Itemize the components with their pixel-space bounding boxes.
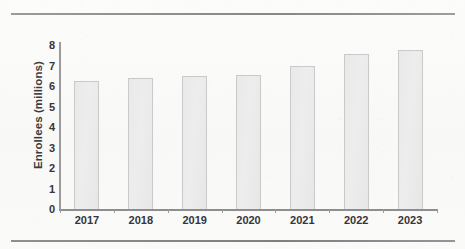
bar-2019 <box>182 76 207 209</box>
y-axis-tick-labels: 876543210 <box>28 16 55 238</box>
x-tick-mark <box>383 209 384 213</box>
x-tick-label: 2019 <box>182 214 206 226</box>
x-tick-label: 2017 <box>75 214 99 226</box>
x-tick-label: 2023 <box>398 214 422 226</box>
y-tick-label: 4 <box>33 121 55 133</box>
bar-chart: Enrollees (millions) 876543210 201720182… <box>0 16 465 238</box>
bar-2020 <box>236 75 261 209</box>
bar-series <box>60 16 437 209</box>
y-tick-label: 1 <box>33 183 55 195</box>
y-tick-label: 6 <box>33 80 55 92</box>
x-tick-mark <box>275 209 276 213</box>
bar-2023 <box>398 50 423 209</box>
y-tick-label: 8 <box>33 39 55 51</box>
x-tick-mark <box>222 209 223 213</box>
y-tick-label: 0 <box>33 203 55 215</box>
x-tick-mark <box>114 209 115 213</box>
top-divider-rule <box>11 13 455 15</box>
x-tick-label: 2018 <box>129 214 153 226</box>
y-tick-label: 5 <box>33 101 55 113</box>
x-tick-mark <box>437 209 438 213</box>
x-tick-mark <box>329 209 330 213</box>
bar-2018 <box>128 78 153 209</box>
y-tick-label: 7 <box>33 60 55 72</box>
x-tick-label: 2022 <box>344 214 368 226</box>
bar-2022 <box>344 54 369 209</box>
bottom-divider-rule <box>11 240 455 242</box>
x-tick-label: 2021 <box>290 214 314 226</box>
x-tick-label: 2020 <box>236 214 260 226</box>
x-axis-tick-labels: 2017201820192020202120222023 <box>60 214 437 234</box>
x-tick-mark <box>168 209 169 213</box>
y-tick-label: 3 <box>33 142 55 154</box>
x-tick-mark <box>60 209 61 213</box>
y-tick-label: 2 <box>33 162 55 174</box>
bar-2017 <box>74 81 99 209</box>
bar-2021 <box>290 66 315 210</box>
